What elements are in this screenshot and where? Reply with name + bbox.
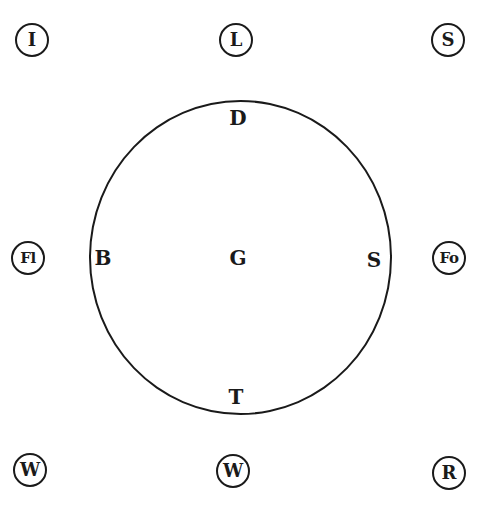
node-label: W bbox=[223, 462, 243, 480]
node-bottom-left: W bbox=[13, 453, 47, 487]
node-top-center: L bbox=[219, 23, 253, 57]
node-middle-left: Fl bbox=[11, 241, 45, 275]
node-label: I bbox=[28, 31, 36, 49]
circle-label-right: S bbox=[367, 250, 381, 270]
circle-label-center: G bbox=[229, 248, 246, 268]
node-label: R bbox=[442, 464, 457, 482]
node-bottom-right: R bbox=[432, 456, 466, 490]
circle-label-bottom: T bbox=[229, 387, 244, 407]
diagram-canvas: D B G S T I L S Fl Fo W W R bbox=[0, 0, 480, 516]
node-bottom-center: W bbox=[216, 454, 250, 488]
node-label: Fl bbox=[20, 251, 35, 266]
node-label: S bbox=[442, 31, 455, 49]
node-label: L bbox=[230, 31, 243, 49]
node-label: W bbox=[20, 461, 40, 479]
node-middle-right: Fo bbox=[432, 241, 466, 275]
node-top-right: S bbox=[431, 23, 465, 57]
circle-label-left: B bbox=[95, 248, 112, 268]
circle-label-top: D bbox=[229, 108, 246, 128]
node-top-left: I bbox=[15, 23, 49, 57]
node-label: Fo bbox=[440, 251, 459, 266]
